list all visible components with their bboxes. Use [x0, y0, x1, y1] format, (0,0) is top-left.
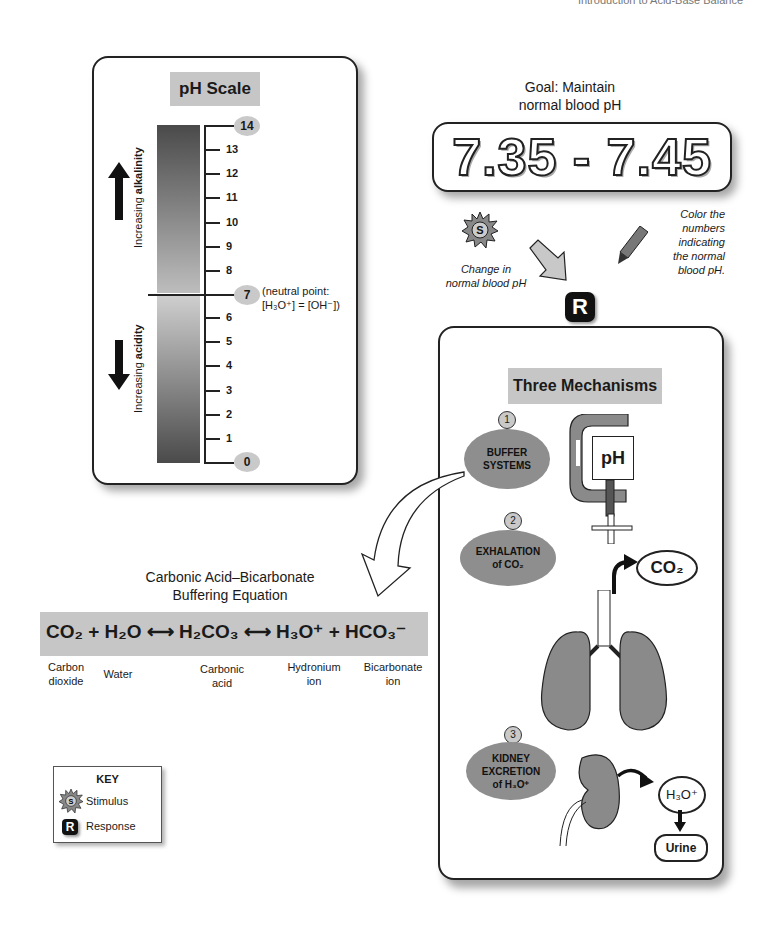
key-legend: KEY S Stimulus R Response: [53, 766, 162, 843]
arrow-up-icon: [108, 162, 130, 220]
ph-scale-title: pH Scale: [170, 72, 260, 106]
kidney-excretion-oval: KIDNEY EXCRETION of H₃O⁺: [466, 742, 556, 800]
to-urine-arrow-icon: [674, 810, 686, 834]
tick-8: [204, 270, 220, 272]
alkalinity-prefix: Increasing: [132, 194, 144, 248]
exhale-arrow-icon: [608, 554, 638, 594]
tick-7: [204, 294, 234, 296]
label-line: Hydronium: [282, 660, 346, 674]
label-carbonic-acid: Carbonicacid: [192, 662, 252, 690]
svg-text:S: S: [69, 797, 74, 806]
alkalinity-bold: alkalinity: [132, 147, 144, 194]
normal-ph-range-box[interactable]: 7.35 - 7.45: [432, 122, 732, 192]
buffer-systems-oval: BUFFER SYSTEMS: [464, 429, 550, 489]
tick-12: [204, 173, 220, 175]
ph-scale-panel: pH Scale 14 13 12 11 10 9 8 7 6 5 4 3 2 …: [92, 56, 358, 485]
tick-0: [204, 462, 234, 464]
label-line: ion: [356, 674, 430, 688]
stimulus-note-line1: Change in: [436, 262, 536, 276]
kidney-line1: KIDNEY: [482, 752, 540, 765]
increasing-acidity-label: Increasing acidity: [132, 324, 144, 413]
neutral-point-note: (neutral point: [H₃O⁺] = [OH⁻]): [262, 284, 357, 312]
tick-2: [204, 414, 220, 416]
key-stimulus-label: Stimulus: [86, 795, 128, 807]
color-instruction-note: Color the numbers indicating the normal …: [640, 207, 725, 277]
tick-label-13: 13: [226, 143, 238, 155]
label-line: Bicarbonate: [356, 660, 430, 674]
tick-label-3: 3: [226, 384, 232, 396]
tick-label-1: 1: [226, 432, 232, 444]
stimulus-starburst-icon: S: [462, 212, 498, 248]
equation-title-line1: Carbonic Acid–Bicarbonate: [120, 568, 340, 586]
buffer-to-equation-arrow-icon: [344, 470, 468, 600]
ph-gradient-bar-acidic: [157, 295, 200, 463]
acidity-bold: acidity: [132, 324, 144, 359]
tick-1: [204, 438, 220, 440]
tick-10: [204, 222, 220, 224]
label-hydronium-ion: Hydroniumion: [282, 660, 346, 688]
tick-label-2: 2: [226, 408, 232, 420]
mechanism-number-2: 2: [504, 512, 522, 530]
color-note-line: the normal: [640, 249, 725, 263]
color-note-line: numbers: [640, 221, 725, 235]
normal-ph-range: 7.35 - 7.45: [452, 128, 712, 186]
label-line: dioxide: [44, 674, 88, 688]
label-line: Carbon: [44, 660, 88, 674]
label-line: Water: [96, 667, 140, 681]
goal-title-line2: normal blood pH: [470, 96, 670, 114]
label-line: acid: [192, 676, 252, 690]
key-response-icon: R: [62, 819, 78, 835]
exhalation-oval: EXHALATION of CO₂: [460, 530, 556, 586]
kidney-line2: EXCRETION: [482, 765, 540, 778]
mechanisms-panel: Three Mechanisms 1 BUFFER SYSTEMS pH 2 E…: [438, 326, 724, 880]
arrow-down-icon: [108, 340, 130, 390]
increasing-alkalinity-label: Increasing alkalinity: [132, 147, 144, 248]
goal-title: Goal: Maintain normal blood pH: [470, 78, 670, 114]
label-carbon-dioxide: Carbondioxide: [44, 660, 88, 688]
response-badge-icon: R: [565, 292, 595, 322]
buffering-equation: CO₂ + H₂O ⟷ H₂CO₃ ⟷ H₃O⁺ + HCO₃⁻: [46, 620, 406, 643]
tick-label-11: 11: [226, 191, 238, 203]
stimulus-note-line2: normal blood pH: [436, 276, 536, 290]
clamp-ph-block: pH: [592, 436, 634, 480]
tick-label-10: 10: [226, 216, 238, 228]
lungs-icon: [538, 590, 672, 734]
mechanism-number-1: 1: [498, 411, 516, 429]
equation-title-line2: Buffering Equation: [120, 586, 340, 604]
ph-gradient-bar-alkaline: [157, 125, 200, 293]
tick-label-12: 12: [226, 167, 238, 179]
tick-label-7: 7: [234, 285, 260, 305]
neutral-note-line2: [H₃O⁺] = [OH⁻]): [262, 298, 357, 312]
color-note-line: indicating: [640, 235, 725, 249]
tick-6: [204, 317, 220, 319]
exhalation-line2: of CO₂: [476, 558, 540, 571]
stimulus-to-response-arrow-icon: [528, 238, 570, 282]
stimulus-note: Change in normal blood pH: [436, 262, 536, 290]
co2-bubble: CO₂: [636, 550, 698, 586]
tick-14: [204, 125, 234, 127]
tick-label-0: 0: [234, 452, 260, 472]
label-bicarbonate-ion: Bicarbonateion: [356, 660, 430, 688]
neutral-note-line1: (neutral point:: [262, 284, 357, 298]
key-stimulus-icon: S: [59, 789, 83, 813]
kidney-line3: of H₃O⁺: [482, 778, 540, 791]
exhalation-line1: EXHALATION: [476, 545, 540, 558]
color-note-line: blood pH.: [640, 263, 725, 277]
page-header: Introduction to Acid-Base Balance: [578, 0, 743, 6]
goal-title-line1: Goal: Maintain: [470, 78, 670, 96]
buffer-line1: BUFFER: [483, 446, 531, 459]
tick-11: [204, 197, 220, 199]
buffer-line2: SYSTEMS: [483, 459, 531, 472]
tick-label-4: 4: [226, 359, 232, 371]
tick-label-5: 5: [226, 335, 232, 347]
acidity-prefix: Increasing: [132, 359, 144, 413]
tick-label-6: 6: [226, 311, 232, 323]
label-water: Water: [96, 667, 140, 681]
tick-label-9: 9: [226, 240, 232, 252]
equation-title: Carbonic Acid–Bicarbonate Buffering Equa…: [120, 568, 340, 604]
tick-3: [204, 390, 220, 392]
urine-bubble: Urine: [654, 834, 708, 862]
label-line: Carbonic: [192, 662, 252, 676]
tick-9: [204, 246, 220, 248]
tick-13: [204, 149, 220, 151]
